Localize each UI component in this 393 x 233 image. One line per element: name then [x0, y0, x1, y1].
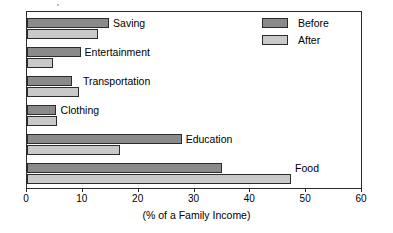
- scan-artifact-speck: [57, 4, 59, 6]
- x-axis: 0102030405060: [26, 188, 362, 194]
- x-axis-title: (% of a Family Income): [0, 209, 393, 221]
- bar-entertainment-after: [27, 58, 53, 68]
- x-tick-10: [82, 188, 83, 192]
- bar-food-before: [27, 163, 222, 173]
- x-tick-label-0: 0: [23, 193, 29, 204]
- x-tick-0: [26, 188, 27, 192]
- category-label-clothing: Clothing: [61, 104, 100, 116]
- chart-legend: Before After: [262, 16, 358, 50]
- bar-clothing-after: [27, 116, 57, 126]
- category-label-education: Education: [186, 133, 233, 145]
- x-tick-30: [194, 188, 195, 192]
- category-label-food: Food: [295, 162, 319, 174]
- x-tick-20: [138, 188, 139, 192]
- category-label-transportation: Transportation: [83, 75, 150, 87]
- bar-saving-after: [27, 29, 98, 39]
- x-tick-40: [249, 188, 250, 192]
- x-tick-50: [305, 188, 306, 192]
- bar-saving-before: [27, 18, 109, 28]
- legend-item-after: After: [262, 33, 358, 50]
- legend-item-before: Before: [262, 16, 358, 33]
- legend-label-before: Before: [298, 16, 329, 30]
- x-tick-label-20: 20: [132, 193, 143, 204]
- bar-chart: Saving Entertainment Transportation Clot…: [0, 0, 393, 233]
- legend-swatch-after-icon: [262, 35, 288, 45]
- bar-education-after: [27, 145, 120, 155]
- legend-swatch-before-icon: [262, 18, 288, 28]
- bar-clothing-before: [27, 105, 56, 115]
- bar-education-before: [27, 134, 182, 144]
- category-label-entertainment: Entertainment: [85, 46, 150, 58]
- bar-entertainment-before: [27, 47, 81, 57]
- legend-label-after: After: [298, 33, 320, 47]
- bar-food-after: [27, 174, 291, 184]
- category-label-saving: Saving: [113, 17, 145, 29]
- x-tick-label-10: 10: [76, 193, 87, 204]
- x-tick-60: [361, 188, 362, 192]
- x-tick-label-60: 60: [355, 193, 366, 204]
- bar-transportation-after: [27, 87, 79, 97]
- x-tick-label-40: 40: [244, 193, 255, 204]
- bar-transportation-before: [27, 76, 72, 86]
- x-tick-label-30: 30: [188, 193, 199, 204]
- x-tick-label-50: 50: [300, 193, 311, 204]
